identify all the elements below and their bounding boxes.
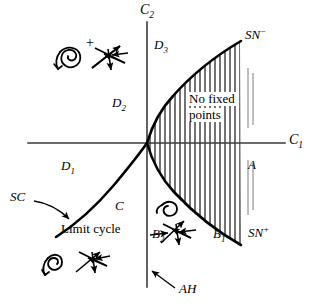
- limit-cycle-label: Limit cycle: [61, 222, 121, 236]
- outer-hatch-marks: [248, 68, 253, 215]
- ah-pointer-arrow: [152, 271, 175, 288]
- no-fixed-points-label-line2: points: [188, 108, 222, 122]
- region-label-b2: B2: [152, 227, 164, 244]
- plus-sign-label: +: [86, 36, 94, 51]
- no-fixed-points-label-line1: No fixed: [188, 92, 236, 106]
- bifurcation-diagram-figure: C2 C1 D3 D2 D1 C A B1 B2 No fixed points…: [0, 0, 316, 307]
- region-label-d2: D2: [112, 96, 126, 113]
- spiral-icon-bottom-left: [42, 255, 62, 275]
- saddle-vector-field-icon: [92, 46, 128, 70]
- region-label-c: C: [115, 199, 124, 213]
- sn-plus-label: SN+: [248, 225, 269, 240]
- c1-axis-label: C1: [289, 133, 303, 150]
- sc-pointer-arrow: [34, 201, 69, 219]
- ah-label: AH: [179, 282, 196, 296]
- sc-label: SC: [10, 190, 25, 204]
- region-label-b1: B1: [213, 227, 225, 244]
- region-label-d1: D1: [61, 159, 75, 176]
- region-label-a: A: [248, 158, 256, 172]
- sn-minus-label: SN−: [245, 27, 266, 42]
- double-spiral-icon: [54, 48, 80, 69]
- saddle-vector-field-icon-bottom-left: [76, 252, 110, 273]
- spiral-icon-b2: [157, 202, 177, 216]
- axes: [28, 22, 285, 287]
- region-label-d3: D3: [154, 38, 168, 55]
- c2-axis-label: C2: [140, 3, 154, 20]
